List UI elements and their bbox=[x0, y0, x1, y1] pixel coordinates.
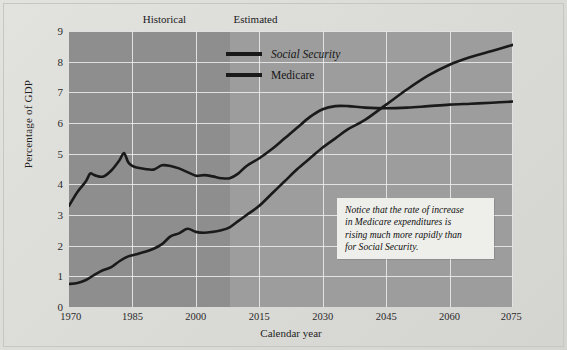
legend-item-medicare: Medicare bbox=[226, 67, 340, 83]
section-header-estimated: Estimated bbox=[233, 13, 277, 25]
x-tick-label: 2045 bbox=[376, 311, 397, 322]
series-line-social-security bbox=[69, 102, 513, 206]
legend-item-social-security: Social Security bbox=[226, 46, 340, 62]
x-axis-tick-labels: 19701985200020152030204520602075 bbox=[69, 311, 513, 327]
x-tick-label: 2015 bbox=[249, 311, 270, 322]
y-tick-label: 8 bbox=[41, 56, 63, 68]
y-axis-title: Percentage of GDP bbox=[22, 54, 34, 194]
annotation-line: for Social Security. bbox=[345, 241, 487, 253]
x-axis-title: Calendar year bbox=[69, 327, 513, 339]
y-tick-label: 2 bbox=[41, 240, 63, 252]
x-tick-label: 2075 bbox=[501, 311, 522, 322]
x-tick-label: 1985 bbox=[122, 311, 143, 322]
legend-swatch-icon bbox=[226, 73, 262, 77]
y-tick-label: 1 bbox=[41, 270, 63, 282]
legend-label: Social Security bbox=[271, 48, 340, 60]
legend-label: Medicare bbox=[271, 69, 314, 81]
y-tick-label: 9 bbox=[41, 25, 63, 37]
annotation-callout: Notice that the rate of increasein Medic… bbox=[337, 198, 494, 259]
annotation-line: in Medicare expenditures is bbox=[345, 216, 487, 228]
chart-page: Historical Estimated 0123456789 Percenta… bbox=[0, 0, 567, 350]
legend-swatch-icon bbox=[226, 52, 262, 56]
x-tick-label: 2030 bbox=[312, 311, 333, 322]
y-tick-label: 7 bbox=[41, 86, 63, 98]
annotation-line: Notice that the rate of increase bbox=[345, 204, 487, 216]
y-tick-label: 3 bbox=[41, 209, 63, 221]
x-tick-label: 2000 bbox=[185, 311, 206, 322]
y-tick-label: 6 bbox=[41, 117, 63, 129]
x-tick-label: 1970 bbox=[60, 311, 81, 322]
y-tick-label: 5 bbox=[41, 148, 63, 160]
section-header-historical: Historical bbox=[143, 13, 186, 25]
y-axis-tick-labels: 0123456789 bbox=[41, 31, 63, 307]
annotation-line: rising much more rapidly than bbox=[345, 229, 487, 241]
y-tick-label: 4 bbox=[41, 178, 63, 190]
x-tick-label: 2060 bbox=[439, 311, 460, 322]
chart-legend: Social SecurityMedicare bbox=[226, 46, 340, 88]
